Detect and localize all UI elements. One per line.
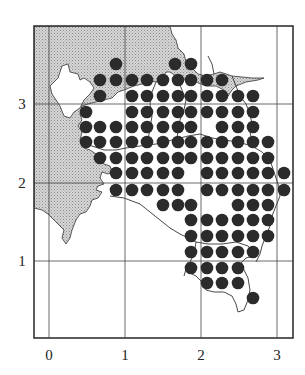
data-dot [232, 262, 245, 275]
data-dot [201, 184, 214, 197]
data-dot [126, 90, 139, 103]
data-dot [216, 152, 229, 165]
data-dot [141, 136, 154, 149]
data-dot [110, 167, 123, 180]
data-dot [157, 106, 170, 119]
data-dot [201, 136, 214, 149]
data-dot [110, 121, 123, 134]
data-dot [201, 277, 214, 290]
data-dot [247, 90, 260, 103]
data-dot [172, 167, 185, 180]
data-dot [247, 136, 260, 149]
data-dot [201, 90, 214, 103]
data-dot [185, 246, 198, 259]
data-dot [262, 230, 275, 243]
data-dot [232, 167, 245, 180]
data-dot [80, 121, 93, 134]
data-dot [232, 184, 245, 197]
data-dot [157, 184, 170, 197]
data-dot [110, 152, 123, 165]
data-dot [94, 121, 107, 134]
data-dot [80, 106, 93, 119]
data-dot [126, 167, 139, 180]
data-dot [247, 292, 260, 305]
data-dot [201, 214, 214, 227]
data-dot [94, 90, 107, 103]
data-dot [185, 214, 198, 227]
data-dot [247, 199, 260, 212]
data-dot [185, 136, 198, 149]
data-dot [278, 167, 291, 180]
data-dot [141, 106, 154, 119]
dot-distribution-map: 0123 321 [0, 0, 305, 375]
data-dot [185, 230, 198, 243]
x-axis-labels: 0123 [45, 347, 281, 363]
data-dot [232, 152, 245, 165]
data-dot [216, 106, 229, 119]
data-dot [172, 121, 185, 134]
data-dot [232, 90, 245, 103]
data-dot [172, 74, 185, 87]
data-dot [94, 152, 107, 165]
data-dot [172, 199, 185, 212]
data-dot [232, 136, 245, 149]
x-tick-label: 1 [121, 347, 129, 363]
data-dot [172, 136, 185, 149]
data-dot [201, 152, 214, 165]
data-dot [141, 90, 154, 103]
data-dot [201, 246, 214, 259]
data-dot [126, 74, 139, 87]
data-dot [216, 214, 229, 227]
data-dot [216, 167, 229, 180]
data-dot [172, 184, 185, 197]
data-dot [216, 230, 229, 243]
data-dot [185, 90, 198, 103]
data-dot [157, 152, 170, 165]
data-dot [110, 58, 123, 71]
y-tick-label: 3 [18, 96, 26, 112]
y-tick-label: 1 [18, 253, 26, 269]
data-dot [232, 106, 245, 119]
data-dot [247, 214, 260, 227]
data-dot [80, 136, 93, 149]
data-dot [247, 246, 260, 259]
data-dot [157, 199, 170, 212]
data-dot [262, 214, 275, 227]
data-dot [201, 262, 214, 275]
data-dot [185, 199, 198, 212]
data-dot [247, 184, 260, 197]
data-dot [216, 277, 229, 290]
x-tick-label: 2 [197, 347, 205, 363]
data-dot [110, 184, 123, 197]
data-dot [185, 58, 198, 71]
data-dot [232, 246, 245, 259]
x-tick-label: 3 [273, 347, 281, 363]
data-dot [232, 121, 245, 134]
data-dot [185, 121, 198, 134]
data-dot [185, 262, 198, 275]
data-dot [141, 152, 154, 165]
data-dot [262, 152, 275, 165]
data-dot [262, 167, 275, 180]
data-dot [126, 106, 139, 119]
data-dot [169, 58, 182, 71]
data-dot [216, 74, 229, 87]
data-dot [185, 152, 198, 165]
data-dot [110, 136, 123, 149]
data-dot [185, 74, 198, 87]
data-dot [157, 121, 170, 134]
data-dot [94, 136, 107, 149]
data-dot [185, 106, 198, 119]
data-dot [157, 90, 170, 103]
data-dot [247, 121, 260, 134]
data-dot [126, 136, 139, 149]
data-dot [262, 184, 275, 197]
data-dot [216, 184, 229, 197]
data-dot [201, 74, 214, 87]
data-dot [232, 277, 245, 290]
data-dot [126, 184, 139, 197]
data-dot [216, 90, 229, 103]
data-dot [232, 199, 245, 212]
data-dot [172, 90, 185, 103]
data-dot [262, 136, 275, 149]
